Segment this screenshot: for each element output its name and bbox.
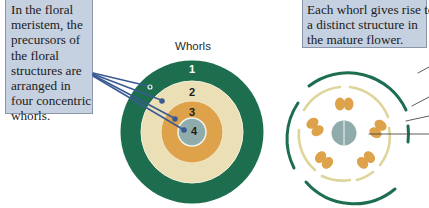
pointer-dot-2 xyxy=(160,99,164,103)
flower-diagram xyxy=(287,67,429,204)
pointer-dot-3 xyxy=(173,117,177,121)
stamen xyxy=(335,98,354,111)
whorl-label-2: 2 xyxy=(185,86,199,98)
stamen xyxy=(367,117,389,140)
whorl-label-4: 4 xyxy=(187,125,201,137)
stamen xyxy=(313,149,336,171)
whorl-label-1: 1 xyxy=(185,63,199,75)
whorls-title: Whorls xyxy=(166,40,220,52)
whorl-label-3: 3 xyxy=(185,106,199,118)
pointer-dot-4 xyxy=(182,128,186,132)
stamen xyxy=(304,115,326,138)
stamen xyxy=(355,149,378,171)
diagram-canvas xyxy=(0,0,429,208)
carpel xyxy=(332,121,357,146)
